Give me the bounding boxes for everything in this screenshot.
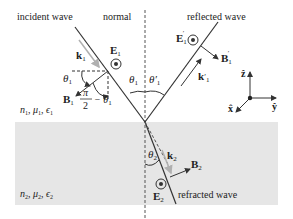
B1p-arrow [201,46,218,59]
medium2-label: n2, μ2, ϵ2 [20,188,53,200]
E1-out-of-page-icon [111,59,121,69]
B1p-label: B1′ [221,49,232,66]
incident-wave-label: incident wave [17,11,73,22]
svg-text:π: π [83,87,89,98]
theta1-arc-center [130,91,145,93]
refracted-wave-label: refracted wave [178,189,238,200]
E1-label: E1 [110,44,121,58]
theta1-center-label: θ1 [129,73,138,87]
E1p-out-of-page-icon [188,35,198,45]
B1-arrow [76,71,108,96]
medium2-region [15,122,278,205]
reflection-refraction-diagram: incident wave normal reflected wave refr… [0,0,293,219]
k1-label: k1 [76,49,86,63]
k1p-label: k′1 [198,70,210,84]
theta1-arc-left [82,71,90,86]
theta1-left-label: θ1 [63,72,72,86]
z-axis-label: ẑ [241,68,246,79]
x-axis-label: x̂ [228,103,233,114]
svg-text:2: 2 [83,100,88,111]
B1-label: B1 [63,93,74,107]
reflected-wave-label: reflected wave [187,11,246,22]
theta1p-arc [145,91,164,95]
y-axis-label: ŷ [272,101,277,112]
E1p-label: E1′ [176,29,187,46]
normal-label: normal [103,11,132,22]
theta1p-label: θ′1 [149,73,161,87]
svg-text:− θ1: − θ1 [94,94,112,107]
medium1-label: n1, μ1, ϵ1 [20,104,53,116]
